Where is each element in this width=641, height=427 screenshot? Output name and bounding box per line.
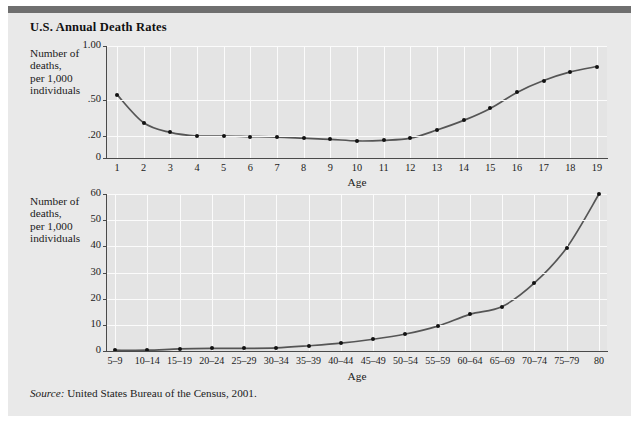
gridline-vertical	[341, 194, 342, 351]
gridline-vertical	[276, 194, 277, 351]
y-tick-label: 0	[67, 151, 101, 162]
gridline-horizontal	[107, 194, 607, 195]
x-tick-label: 55–59	[420, 355, 456, 366]
data-point	[248, 135, 252, 139]
x-tick-label: 11	[369, 162, 399, 173]
gridline-vertical	[277, 46, 278, 158]
x-tick-label: 15–19	[162, 355, 198, 366]
gridline-vertical	[304, 46, 305, 158]
x-tick-label: 70–74	[516, 355, 552, 366]
data-point	[597, 192, 601, 196]
source-label: Source:	[30, 387, 64, 399]
header-accent-bar	[8, 6, 631, 13]
source-note: Source: United States Bureau of the Cens…	[30, 387, 257, 399]
x-tick-label: 9	[315, 162, 345, 173]
gridline-vertical	[212, 194, 213, 351]
x-tick-label: 15	[475, 162, 505, 173]
x-tick-label: 75–79	[549, 355, 585, 366]
x-tick-label: 7	[262, 162, 292, 173]
x-tick-label: 13	[422, 162, 452, 173]
data-point	[436, 324, 440, 328]
y-tick-label: 1.00	[67, 39, 101, 50]
x-tick-label: 17	[529, 162, 559, 173]
x-axis-line	[106, 158, 608, 159]
x-tick-label: 16	[502, 162, 532, 173]
gridline-vertical	[567, 194, 568, 351]
data-point	[307, 344, 311, 348]
source-text: United States Bureau of the Census, 2001…	[64, 387, 256, 399]
y-tick-label: 30	[67, 266, 101, 277]
x-tick-label: 3	[155, 162, 185, 173]
bottom-chart-xaxis-title: Age	[107, 370, 607, 382]
y-tick-label: 60	[67, 187, 101, 198]
gridline-horizontal	[107, 299, 607, 300]
gridline-vertical	[330, 46, 331, 158]
data-point	[500, 305, 504, 309]
gridline-vertical	[597, 46, 598, 158]
data-point	[595, 65, 599, 69]
gridline-vertical	[437, 46, 438, 158]
y-tick-label: 40	[67, 239, 101, 250]
gridline-vertical	[490, 46, 491, 158]
gridline-vertical	[250, 46, 251, 158]
y-tick-label: .20	[67, 129, 101, 140]
data-point	[542, 79, 546, 83]
x-tick-label: 5	[209, 162, 239, 173]
x-tick-label: 65–69	[484, 355, 520, 366]
gridline-horizontal	[107, 325, 607, 326]
gridline-vertical	[147, 194, 148, 351]
gridline-vertical	[224, 46, 225, 158]
data-point	[565, 246, 569, 250]
x-tick-label: 19	[582, 162, 612, 173]
gridline-horizontal	[107, 220, 607, 221]
bottom-chart-plot-area	[107, 194, 607, 351]
data-point	[142, 121, 146, 125]
y-tick-label: .50	[67, 93, 101, 104]
y-tick-label: 20	[67, 292, 101, 303]
data-point	[355, 139, 359, 143]
x-tick-label: 5–9	[97, 355, 133, 366]
gridline-vertical	[115, 194, 116, 351]
gridline-vertical	[517, 46, 518, 158]
gridline-vertical	[410, 46, 411, 158]
data-point	[195, 134, 199, 138]
x-tick-label: 14	[449, 162, 479, 173]
gridline-vertical	[405, 194, 406, 351]
x-tick-label: 80	[581, 355, 617, 366]
x-tick-label: 8	[289, 162, 319, 173]
x-tick-label: 12	[395, 162, 425, 173]
gridline-vertical	[502, 194, 503, 351]
top-chart-ylabel: Number of deaths, per 1,000 individuals	[30, 47, 80, 97]
gridline-vertical	[570, 46, 571, 158]
data-point	[115, 93, 119, 97]
gridline-vertical	[470, 194, 471, 351]
data-point	[222, 134, 226, 138]
gridline-vertical	[180, 194, 181, 351]
x-tick-label: 30–34	[258, 355, 294, 366]
gridline-vertical	[464, 46, 465, 158]
gridline-vertical	[117, 46, 118, 158]
data-point	[339, 341, 343, 345]
y-tick-label: 0	[67, 344, 101, 355]
x-tick-label: 50–54	[387, 355, 423, 366]
x-tick-label: 40–44	[323, 355, 359, 366]
data-point	[435, 128, 439, 132]
gridline-vertical	[309, 194, 310, 351]
x-tick-label: 20–24	[194, 355, 230, 366]
y-axis-line	[106, 194, 107, 352]
gridline-vertical	[197, 46, 198, 158]
x-axis-line	[106, 351, 608, 352]
x-tick-label: 35–39	[291, 355, 327, 366]
gridline-vertical	[244, 194, 245, 351]
gridline-vertical	[544, 46, 545, 158]
gridline-horizontal	[107, 246, 607, 247]
x-tick-label: 10	[342, 162, 372, 173]
gridline-vertical	[534, 194, 535, 351]
x-tick-label: 2	[129, 162, 159, 173]
gridline-vertical	[373, 194, 374, 351]
y-tick-label: 50	[67, 213, 101, 224]
x-tick-label: 45–49	[355, 355, 391, 366]
x-tick-label: 6	[235, 162, 265, 173]
x-tick-label: 1	[102, 162, 132, 173]
y-axis-line	[106, 46, 107, 159]
